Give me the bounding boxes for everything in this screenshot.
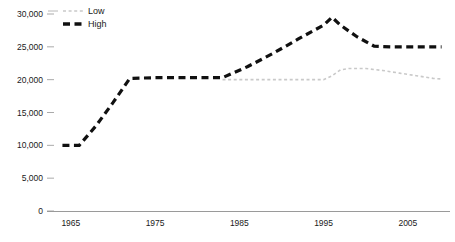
x-axis-tick-label: 1985 xyxy=(230,218,249,228)
y-axis-tick-label: 10,000 xyxy=(17,140,43,150)
series-line-low xyxy=(223,69,442,80)
x-axis-tick-label: 2005 xyxy=(398,218,417,228)
x-axis-tick-label: 1975 xyxy=(146,218,165,228)
x-axis-tick-labels: 19651975198519952005 xyxy=(61,218,417,228)
series-lines xyxy=(62,17,441,145)
y-axis-tick-label: 0 xyxy=(38,206,43,216)
legend-label-high: High xyxy=(88,19,107,29)
y-axis-tick-label: 20,000 xyxy=(17,75,43,85)
x-axis-tick-label: 1965 xyxy=(61,218,80,228)
chart-container: 05,00010,00015,00020,00025,00030,000 196… xyxy=(0,0,455,242)
legend-label-low: Low xyxy=(88,6,105,16)
series-line-high xyxy=(62,17,441,145)
y-axis-tick-label: 30,000 xyxy=(17,9,43,19)
line-chart: 05,00010,00015,00020,00025,00030,000 196… xyxy=(0,0,455,242)
y-axis-tick-label: 5,000 xyxy=(22,173,44,183)
chart-legend: LowHigh xyxy=(48,6,107,29)
y-axis-tick-label: 15,000 xyxy=(17,108,43,118)
y-axis-tick-labels: 05,00010,00015,00020,00025,00030,000 xyxy=(17,9,43,216)
y-axis-tick-label: 25,000 xyxy=(17,42,43,52)
x-axis-tick-label: 1995 xyxy=(314,218,333,228)
y-axis-ticks xyxy=(47,14,54,211)
